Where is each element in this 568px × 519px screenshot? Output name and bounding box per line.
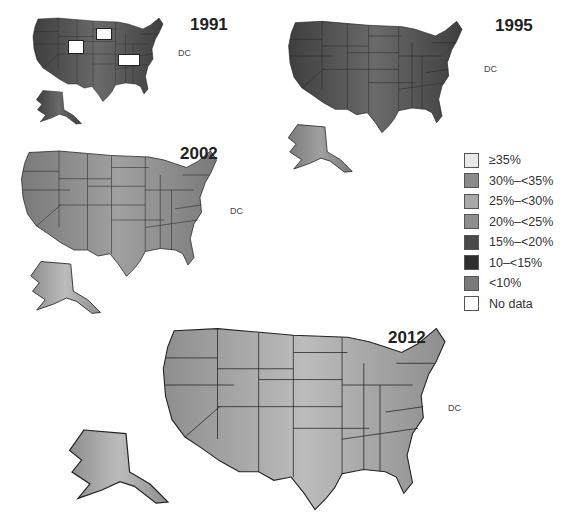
legend-item: 25%–<30% [464, 191, 553, 212]
legend-item: <10% [464, 273, 553, 294]
legend-item: 15%–<20% [464, 232, 553, 253]
alaska-1991 [32, 86, 87, 128]
dc-label-1995: DC [484, 64, 497, 74]
legend-label: 15%–<20% [489, 235, 553, 249]
legend-item: 30%–<35% [464, 171, 553, 192]
year-label-2012: 2012 [388, 328, 426, 348]
alaska-1995 [282, 118, 360, 178]
legend-item: ≥35% [464, 150, 553, 171]
alaska-2012 [60, 420, 180, 512]
dc-label-2012: DC [448, 403, 461, 413]
legend-swatch [464, 296, 479, 311]
legend-swatch [464, 214, 479, 229]
legend-label: ≥35% [489, 153, 521, 167]
legend-label: 10–<15% [489, 256, 542, 270]
legend: ≥35% 30%–<35% 25%–<30% 20%–<25% 15%–<20%… [464, 150, 553, 314]
dc-label-1991: DC [178, 48, 191, 58]
legend-label: 30%–<35% [489, 174, 553, 188]
legend-swatch [464, 235, 479, 250]
dc-label-2002: DC [230, 206, 243, 216]
legend-label: <10% [489, 276, 521, 290]
us-map-2012 [150, 320, 480, 515]
legend-label: 25%–<30% [489, 194, 553, 208]
legend-swatch [464, 194, 479, 209]
year-label-1995: 1995 [495, 16, 533, 36]
year-label-1991: 1991 [190, 15, 228, 35]
legend-swatch [464, 173, 479, 188]
legend-swatch [464, 255, 479, 270]
legend-item: No data [464, 294, 553, 315]
legend-item: 20%–<25% [464, 212, 553, 233]
legend-label: 20%–<25% [489, 215, 553, 229]
map-2012 [150, 320, 480, 515]
legend-swatch [464, 153, 479, 168]
year-label-2002: 2002 [180, 144, 218, 164]
legend-swatch [464, 276, 479, 291]
alaska-2002 [24, 254, 109, 320]
legend-label: No data [489, 297, 533, 311]
legend-item: 10–<15% [464, 253, 553, 274]
